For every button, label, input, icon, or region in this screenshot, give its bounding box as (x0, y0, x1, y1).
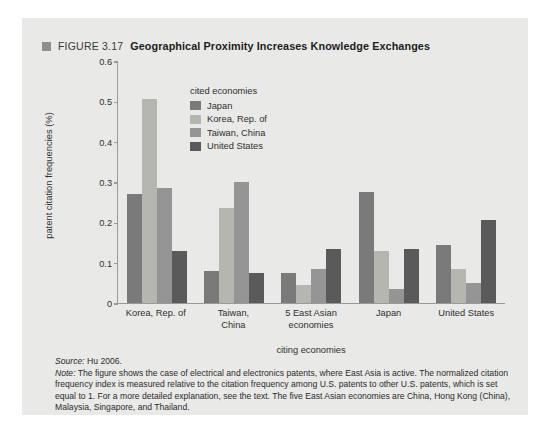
figure-panel: FIGURE 3.17 Geographical Proximity Incre… (22, 18, 528, 415)
bar-series-container (118, 62, 505, 303)
bar-group (436, 62, 496, 303)
bar (481, 220, 496, 303)
chart-area: patent citation frequencies (%) 00.10.20… (22, 62, 528, 324)
source-text: Hu 2006. (85, 356, 122, 366)
bar (466, 283, 481, 303)
square-marker-icon (42, 42, 51, 51)
plot-region (117, 62, 505, 304)
note-label: Note: (55, 368, 76, 378)
bar (127, 194, 142, 303)
y-axis-tick-mark (114, 263, 119, 264)
legend-item-label: Taiwan, China (207, 128, 265, 138)
x-axis-tick-label: Taiwan,China (195, 308, 271, 331)
bar (326, 249, 341, 303)
bar (359, 192, 374, 303)
y-axis-tick-mark (114, 223, 119, 224)
legend-item-label: Japan (207, 101, 232, 111)
bar (281, 273, 296, 303)
legend-swatch-icon (190, 142, 201, 151)
figure-number: FIGURE 3.17 (58, 40, 123, 52)
legend-swatch-icon (190, 115, 201, 124)
bar-group (359, 62, 419, 303)
source-label: Source: (55, 356, 85, 366)
y-axis-tick-labels: 00.10.20.30.40.50.6 (84, 62, 112, 304)
y-axis-tick-mark (114, 61, 119, 62)
x-axis-tick-label: Japan (351, 308, 427, 331)
y-axis-tick-label: 0.3 (84, 178, 112, 188)
bar (219, 208, 234, 303)
legend-item: United States (190, 140, 267, 154)
legend-swatch-icon (190, 101, 201, 110)
bar (451, 269, 466, 303)
x-axis-label: citing economies (117, 345, 505, 355)
chart-legend: cited economies JapanKorea, Rep. ofTaiwa… (190, 86, 267, 153)
note-text: The figure shows the case of electrical … (55, 368, 510, 413)
x-axis-tick-label: United States (428, 308, 504, 331)
x-axis-tick-labels: Korea, Rep. ofTaiwan,China5 East Asianec… (117, 308, 505, 331)
x-axis-tick-label: 5 East Asianeconomies (273, 308, 349, 331)
y-axis-tick-label: 0.2 (84, 218, 112, 228)
figure-notes: Source: Hu 2006. Note: The figure shows … (55, 356, 515, 414)
y-axis-tick-mark (114, 102, 119, 103)
x-axis-tick-label: Korea, Rep. of (118, 308, 194, 331)
y-axis-tick-mark (114, 142, 119, 143)
bar (157, 188, 172, 303)
y-axis-tick-label: 0.5 (84, 97, 112, 107)
legend-items: JapanKorea, Rep. ofTaiwan, ChinaUnited S… (190, 99, 267, 153)
explanatory-note: Note: The figure shows the case of elect… (55, 368, 515, 414)
y-axis-label: patent citation frequencies (%) (43, 91, 54, 261)
figure-title-row: FIGURE 3.17 Geographical Proximity Incre… (42, 40, 430, 52)
bar (374, 251, 389, 303)
y-axis-tick-mark (114, 303, 119, 304)
bar (404, 249, 419, 303)
legend-item-label: Korea, Rep. of (207, 114, 267, 124)
source-note: Source: Hu 2006. (55, 356, 515, 368)
bar (172, 251, 187, 303)
bar-group (127, 62, 187, 303)
legend-title: cited economies (190, 86, 267, 96)
legend-item: Taiwan, China (190, 126, 267, 140)
bar (204, 271, 219, 303)
y-axis-tick-label: 0.4 (84, 138, 112, 148)
y-axis-tick-label: 0.1 (84, 259, 112, 269)
y-axis-tick-label: 0.6 (84, 57, 112, 67)
y-axis-tick-mark (114, 182, 119, 183)
bar (311, 269, 326, 303)
legend-item: Korea, Rep. of (190, 113, 267, 127)
bar (389, 289, 404, 303)
bar (249, 273, 264, 303)
legend-swatch-icon (190, 128, 201, 137)
legend-item-label: United States (207, 141, 263, 151)
y-axis-tick-label: 0 (84, 299, 112, 309)
figure-title: Geographical Proximity Increases Knowled… (130, 40, 430, 52)
bar (142, 99, 157, 303)
bar (296, 285, 311, 303)
bar (436, 245, 451, 303)
bar (234, 182, 249, 303)
legend-item: Japan (190, 99, 267, 113)
bar-group (281, 62, 341, 303)
